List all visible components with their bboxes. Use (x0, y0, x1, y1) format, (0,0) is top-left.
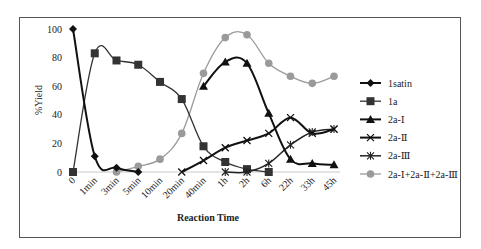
square-marker (178, 95, 186, 103)
circle-marker (221, 34, 229, 42)
square-marker (91, 49, 99, 57)
x-axis-title: Reaction Time (177, 212, 240, 223)
circle-marker (200, 70, 208, 78)
square-marker (69, 168, 77, 176)
circle-marker (308, 80, 316, 88)
square-marker (134, 61, 142, 69)
y-axis-title: %Yield (33, 85, 44, 115)
square-marker (221, 158, 229, 166)
circle-marker (265, 60, 273, 68)
circle-marker (330, 72, 338, 80)
square-marker (200, 142, 208, 150)
legend-label: 2a-Ⅰ (388, 114, 405, 125)
legend-label: 2a-Ⅱ (388, 132, 408, 143)
y-tick-label: 60 (52, 81, 62, 92)
circle-marker (156, 155, 164, 163)
square-marker (156, 78, 164, 86)
legend-label: 2a-Ⅲ (388, 150, 411, 161)
legend-label: 1satin (388, 78, 412, 89)
legend-label: 1a (388, 96, 398, 107)
y-tick-label: 100 (47, 24, 62, 35)
square-marker (113, 56, 121, 64)
chart-frame (20, 18, 461, 238)
circle-marker (178, 130, 186, 138)
y-tick-label: 0 (57, 167, 62, 178)
circle-marker (367, 170, 375, 178)
chart: 020406080100 %Yield 01min3min5min10min20… (0, 0, 481, 249)
square-marker (265, 168, 273, 176)
circle-marker (243, 31, 251, 39)
y-tick-label: 40 (52, 109, 62, 120)
y-tick-label: 80 (52, 52, 62, 63)
square-marker (367, 97, 375, 105)
legend-label: 2a-Ⅰ+2a-Ⅱ+2a-Ⅲ (388, 169, 458, 180)
y-tick-label: 20 (52, 138, 62, 149)
circle-marker (287, 72, 295, 80)
